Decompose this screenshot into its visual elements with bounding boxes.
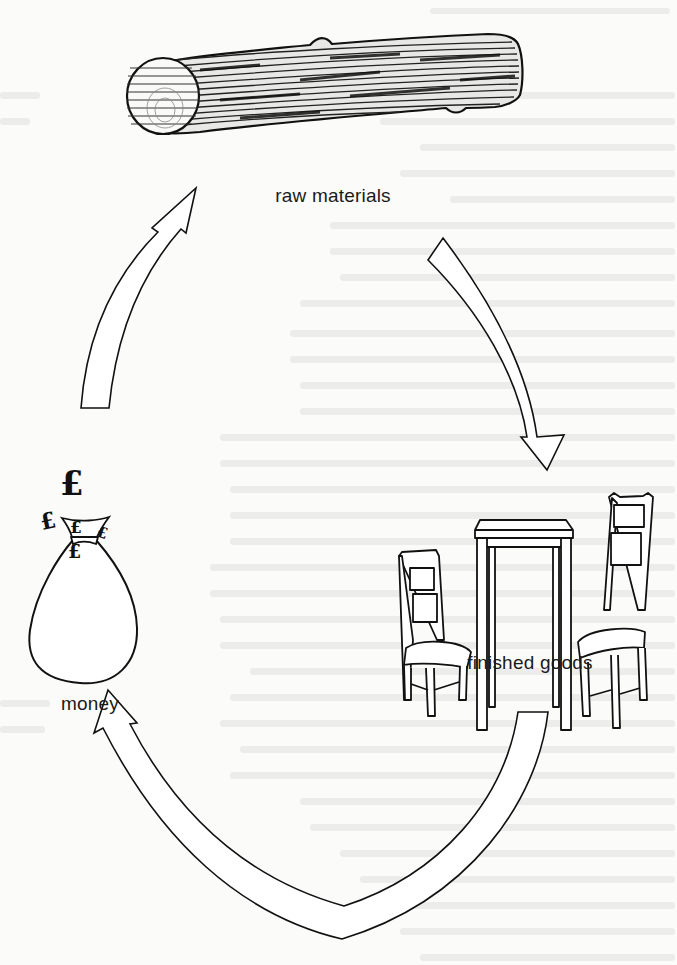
pound-symbol-icon: £ [70, 517, 82, 537]
pound-symbol-icon: £ [68, 540, 81, 562]
finished-goods-label: finished goods [467, 652, 592, 674]
money-label: money [61, 693, 119, 715]
pound-symbol-icon: £ [38, 506, 58, 535]
arrow-money-to-raw-icon [81, 188, 196, 408]
left-chair-icon [399, 550, 471, 716]
log-icon [127, 34, 522, 134]
money-bag-icon: £ £ £ £ £ [29, 463, 137, 683]
table-icon [475, 520, 573, 730]
economic-cycle-diagram: £ £ £ £ £ [0, 0, 677, 965]
right-chair-icon [578, 493, 653, 728]
table-and-chairs-icon [399, 493, 653, 730]
pound-symbol-large-icon: £ [60, 463, 84, 503]
raw-materials-label: raw materials [275, 185, 391, 207]
arrow-raw-to-goods-icon [428, 238, 564, 470]
diagram-artwork: £ £ £ £ £ [0, 0, 677, 965]
